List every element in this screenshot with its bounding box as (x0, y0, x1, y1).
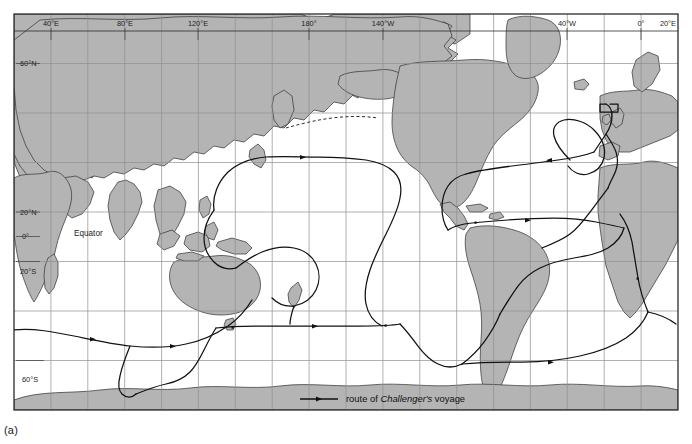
longitude-label: 140°W (372, 19, 394, 28)
latitude-label: 20°S (20, 267, 36, 276)
longitude-label: 20°E (660, 19, 676, 28)
longitude-label: 120°E (188, 19, 208, 28)
longitude-label: 0° (637, 19, 644, 28)
equator-label: Equator (74, 229, 103, 238)
route-indian-entry (6, 330, 14, 336)
legend-prefix: route of (346, 393, 380, 404)
legend-suffix: voyage (432, 393, 465, 404)
longitude-label: 40°E (43, 19, 59, 28)
longitude-label: 180° (301, 19, 316, 28)
world-map-svg: 40°E 80°E 120°E 180° 140°W 40°W 0° 20°E … (0, 0, 692, 444)
latitude-label: 60°S (22, 375, 38, 384)
challenger-voyage-figure: 40°E 80°E 120°E 180° 140°W 40°W 0° 20°E … (0, 0, 692, 444)
legend-label: route of Challenger's voyage (346, 393, 465, 404)
longitude-label: 80°E (117, 19, 133, 28)
figure-caption: (a) (4, 424, 18, 436)
legend-emphasis: Challenger's (380, 393, 432, 404)
longitude-label: 40°W (558, 19, 576, 28)
latitude-label: 20°N (20, 208, 37, 217)
